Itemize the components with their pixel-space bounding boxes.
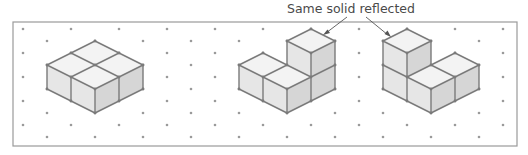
vertex-dot bbox=[430, 88, 433, 91]
grid-dot bbox=[262, 124, 265, 127]
vertex-dot bbox=[70, 52, 73, 55]
vertex-dot bbox=[46, 64, 49, 67]
vertex-dot bbox=[94, 88, 97, 91]
grid-dot bbox=[22, 28, 25, 31]
vertex-dot bbox=[262, 76, 265, 79]
grid-dot bbox=[190, 40, 193, 43]
grid-dot bbox=[502, 76, 505, 79]
vertex-dot bbox=[238, 88, 241, 91]
grid-dot bbox=[166, 28, 169, 31]
vertex-dot bbox=[382, 40, 385, 43]
vertex-dot bbox=[94, 40, 97, 43]
grid-dot bbox=[454, 124, 457, 127]
vertex-dot bbox=[406, 52, 409, 55]
vertex-dot bbox=[310, 76, 313, 79]
grid-dot bbox=[142, 136, 145, 139]
grid-dot bbox=[214, 124, 217, 127]
vertex-dot bbox=[118, 52, 121, 55]
annotation-label: Same solid reflected bbox=[287, 1, 415, 16]
grid-dot bbox=[46, 40, 49, 43]
vertex-dot bbox=[262, 100, 265, 103]
grid-dot bbox=[190, 88, 193, 91]
grid-dot bbox=[214, 100, 217, 103]
grid-dot bbox=[358, 52, 361, 55]
grid-dot bbox=[382, 112, 385, 115]
vertex-dot bbox=[334, 64, 337, 67]
vertex-dot bbox=[406, 28, 409, 31]
grid-dot bbox=[262, 28, 265, 31]
vertex-dot bbox=[334, 40, 337, 43]
vertex-dot bbox=[406, 100, 409, 103]
vertex-dot bbox=[382, 88, 385, 91]
vertex-dot bbox=[478, 64, 481, 67]
vertex-dot bbox=[94, 112, 97, 115]
grid-dot bbox=[334, 136, 337, 139]
vertex-dot bbox=[286, 112, 289, 115]
grid-dot bbox=[142, 112, 145, 115]
grid-dot bbox=[214, 28, 217, 31]
grid-dot bbox=[406, 124, 409, 127]
grid-dot bbox=[358, 100, 361, 103]
vertex-dot bbox=[334, 88, 337, 91]
grid-dot bbox=[238, 40, 241, 43]
grid-dot bbox=[70, 28, 73, 31]
grid-dot bbox=[214, 52, 217, 55]
grid-dot bbox=[430, 136, 433, 139]
grid-dot bbox=[22, 124, 25, 127]
grid-dot bbox=[478, 136, 481, 139]
vertex-dot bbox=[70, 100, 73, 103]
grid-dot bbox=[142, 40, 145, 43]
grid-dot bbox=[166, 100, 169, 103]
vertex-dot bbox=[454, 52, 457, 55]
vertex-dot bbox=[286, 88, 289, 91]
grid-dot bbox=[190, 136, 193, 139]
grid-dot bbox=[478, 40, 481, 43]
vertex-dot bbox=[454, 100, 457, 103]
grid-dot bbox=[286, 136, 289, 139]
grid-dot bbox=[310, 124, 313, 127]
vertex-dot bbox=[70, 76, 73, 79]
vertex-dot bbox=[94, 64, 97, 67]
vertex-dot bbox=[478, 88, 481, 91]
grid-dot bbox=[166, 124, 169, 127]
vertex-dot bbox=[118, 100, 121, 103]
grid-dot bbox=[454, 28, 457, 31]
vertex-dot bbox=[310, 100, 313, 103]
grid-dot bbox=[118, 28, 121, 31]
grid-dot bbox=[46, 136, 49, 139]
vertex-dot bbox=[430, 64, 433, 67]
vertex-dot bbox=[118, 76, 121, 79]
grid-dot bbox=[334, 112, 337, 115]
vertex-dot bbox=[310, 52, 313, 55]
grid-dot bbox=[46, 112, 49, 115]
grid-dot bbox=[478, 112, 481, 115]
vertex-dot bbox=[142, 64, 145, 67]
vertex-dot bbox=[430, 40, 433, 43]
grid-dot bbox=[70, 124, 73, 127]
grid-dot bbox=[118, 124, 121, 127]
grid-dot bbox=[214, 76, 217, 79]
grid-dot bbox=[382, 136, 385, 139]
vertex-dot bbox=[406, 76, 409, 79]
grid-dot bbox=[190, 112, 193, 115]
grid-dot bbox=[22, 100, 25, 103]
grid-dot bbox=[502, 100, 505, 103]
vertex-dot bbox=[430, 112, 433, 115]
vertex-dot bbox=[238, 64, 241, 67]
grid-dot bbox=[166, 76, 169, 79]
grid-dot bbox=[22, 76, 25, 79]
grid-dot bbox=[358, 124, 361, 127]
vertex-dot bbox=[46, 88, 49, 91]
grid-dot bbox=[502, 52, 505, 55]
grid-dot bbox=[166, 52, 169, 55]
grid-dot bbox=[358, 76, 361, 79]
grid-dot bbox=[238, 112, 241, 115]
grid-dot bbox=[238, 136, 241, 139]
vertex-dot bbox=[286, 64, 289, 67]
vertex-dot bbox=[142, 88, 145, 91]
vertex-dot bbox=[286, 40, 289, 43]
vertex-dot bbox=[382, 64, 385, 67]
vertex-dot bbox=[454, 76, 457, 79]
vertex-dot bbox=[262, 52, 265, 55]
grid-dot bbox=[358, 28, 361, 31]
